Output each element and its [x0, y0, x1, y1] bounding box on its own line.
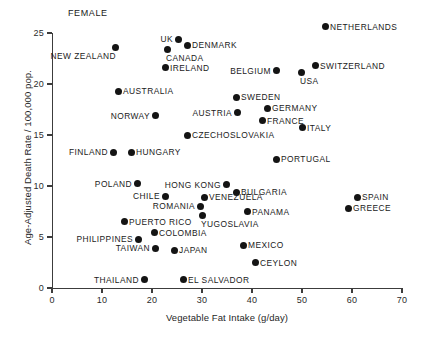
data-point-marker — [184, 132, 191, 139]
x-tick-60 — [351, 288, 352, 293]
data-point-marker — [134, 180, 141, 187]
data-point-marker — [240, 242, 247, 249]
data-point-label: DENMARK — [192, 41, 237, 49]
data-point-label: MEXICO — [248, 241, 284, 249]
data-point-marker — [273, 156, 280, 163]
x-ticklabel-0: 0 — [40, 295, 64, 305]
data-point-marker — [234, 109, 241, 116]
data-point-marker — [244, 208, 251, 215]
data-point-label: PANAMA — [252, 208, 289, 216]
data-point-label: CZECHOSLOVAKIA — [192, 131, 274, 139]
data-point-label: NETHERLANDS — [330, 23, 397, 31]
data-point-label: SWITZERLAND — [320, 62, 385, 70]
x-ticklabel-50: 50 — [290, 295, 314, 305]
x-ticklabel-30: 30 — [190, 295, 214, 305]
data-point-marker — [233, 94, 240, 101]
x-ticklabel-40: 40 — [240, 295, 264, 305]
data-point-marker — [180, 276, 187, 283]
data-point-marker — [164, 46, 171, 53]
data-point-marker — [264, 105, 271, 112]
x-tick-50 — [301, 288, 302, 293]
data-point-marker — [298, 69, 305, 76]
data-point-label: NORWAY — [111, 112, 150, 120]
y-ticklabel-0: 0 — [22, 283, 44, 293]
data-point-label: PHILIPPINES — [76, 235, 133, 243]
data-point-label: PUERTO RICO — [129, 218, 192, 226]
x-ticklabel-60: 60 — [340, 295, 364, 305]
data-point-marker — [151, 229, 158, 236]
data-point-label: USA — [300, 77, 319, 85]
data-point-label: AUSTRIA — [193, 109, 232, 117]
data-point-label: SPAIN — [362, 193, 389, 201]
data-point-marker — [184, 42, 191, 49]
data-point-marker — [175, 36, 182, 43]
data-point-label: HONG KONG — [165, 181, 221, 189]
data-point-label: EL SALVADOR — [188, 276, 250, 284]
y-axis-title: Age-Adjusted Death Rate / 100,000 pop. — [22, 48, 33, 268]
data-point-label: TAIWAN — [116, 244, 150, 252]
data-point-marker — [201, 194, 208, 201]
data-point-marker — [115, 88, 122, 95]
data-point-marker — [152, 112, 159, 119]
data-point-marker — [223, 181, 230, 188]
x-tick-30 — [201, 288, 202, 293]
data-point-marker — [171, 247, 178, 254]
y-axis-line — [52, 33, 53, 288]
data-point-label: THAILAND — [94, 276, 139, 284]
y-tick-10 — [47, 185, 52, 186]
data-point-marker — [299, 124, 306, 131]
data-point-label: POLAND — [95, 180, 132, 188]
x-tick-10 — [101, 288, 102, 293]
data-point-label: HUNGARY — [136, 148, 181, 156]
data-point-marker — [162, 64, 169, 71]
y-tick-15 — [47, 134, 52, 135]
data-point-label: VENEZUELA — [209, 193, 263, 201]
data-point-label: ITALY — [307, 124, 331, 132]
annotation-female: FEMALE — [68, 8, 108, 18]
data-point-marker — [162, 193, 169, 200]
data-point-label: CEYLON — [260, 259, 297, 267]
x-ticklabel-20: 20 — [140, 295, 164, 305]
x-tick-40 — [251, 288, 252, 293]
data-point-label: UK — [160, 35, 173, 43]
data-point-marker — [112, 44, 119, 51]
data-point-label: ROMANIA — [153, 202, 195, 210]
x-axis-line — [52, 288, 402, 289]
data-point-marker — [322, 23, 329, 30]
scatter-chart: FEMALE 0510152025 010203040506070 Age-Ad… — [0, 0, 425, 342]
data-point-label: FRANCE — [267, 117, 304, 125]
data-point-marker — [259, 117, 266, 124]
data-point-marker — [273, 67, 280, 74]
data-point-marker — [252, 259, 259, 266]
data-point-marker — [312, 62, 319, 69]
y-tick-25 — [47, 32, 52, 33]
data-point-label: CHILE — [133, 192, 160, 200]
data-point-label: IRELAND — [170, 64, 209, 72]
data-point-marker — [128, 149, 135, 156]
data-point-label: COLOMBIA — [159, 229, 207, 237]
data-point-label: FINLAND — [69, 148, 108, 156]
x-ticklabel-10: 10 — [90, 295, 114, 305]
data-point-label: PORTUGAL — [281, 155, 331, 163]
x-tick-20 — [151, 288, 152, 293]
data-point-label: GREECE — [353, 204, 391, 212]
data-point-label: NEW ZEALAND — [51, 52, 116, 60]
data-point-label: AUSTRALIA — [123, 87, 174, 95]
data-point-marker — [199, 212, 206, 219]
y-tick-5 — [47, 236, 52, 237]
data-point-label: GERMANY — [272, 104, 318, 112]
y-ticklabel-25: 25 — [22, 28, 44, 38]
data-point-marker — [135, 236, 142, 243]
data-point-marker — [110, 149, 117, 156]
data-point-marker — [152, 245, 159, 252]
data-point-marker — [121, 218, 128, 225]
data-point-marker — [197, 203, 204, 210]
data-point-label: YUGOSLAVIA — [201, 220, 259, 228]
x-tick-70 — [401, 288, 402, 293]
data-point-marker — [345, 205, 352, 212]
y-tick-20 — [47, 83, 52, 84]
data-point-label: BELGIUM — [230, 67, 271, 75]
data-point-marker — [141, 276, 148, 283]
x-ticklabel-70: 70 — [390, 295, 414, 305]
data-point-label: JAPAN — [179, 246, 208, 254]
